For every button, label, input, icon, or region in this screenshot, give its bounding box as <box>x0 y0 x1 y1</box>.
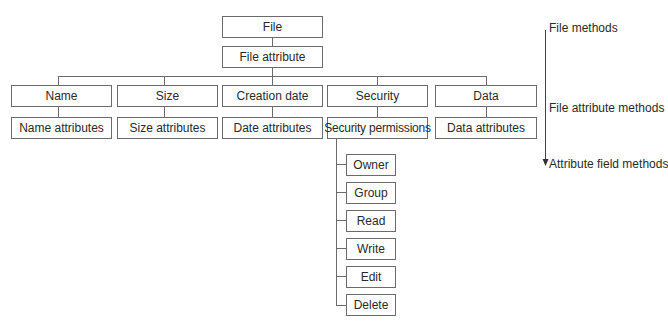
permission-owner-box: Owner <box>346 154 396 176</box>
size-box: Size <box>117 85 218 107</box>
data-box: Data <box>435 85 537 107</box>
permission-write-box: Write <box>346 238 396 260</box>
date-attributes-box: Date attributes <box>222 117 323 139</box>
data-attributes-box: Data attributes <box>435 117 537 139</box>
file-box: File <box>222 16 323 38</box>
level-axis-arrowhead <box>543 159 549 166</box>
creation-date-box: Creation date <box>222 85 323 107</box>
level-label-file-methods: File methods <box>549 21 618 35</box>
permission-group-box: Group <box>346 182 396 204</box>
level-label-file-attribute-methods: File attribute methods <box>549 101 664 115</box>
level-label-attribute-field-methods: Attribute field methods <box>549 157 668 171</box>
security-permissions-box: Security permissions <box>327 117 428 139</box>
security-box: Security <box>327 85 428 107</box>
permission-read-box: Read <box>346 210 396 232</box>
size-attributes-box: Size attributes <box>117 117 218 139</box>
file-attribute-box: File attribute <box>222 46 323 68</box>
permission-delete-box: Delete <box>346 294 396 316</box>
permission-edit-box: Edit <box>346 266 396 288</box>
name-box: Name <box>11 85 112 107</box>
name-attributes-box: Name attributes <box>11 117 112 139</box>
